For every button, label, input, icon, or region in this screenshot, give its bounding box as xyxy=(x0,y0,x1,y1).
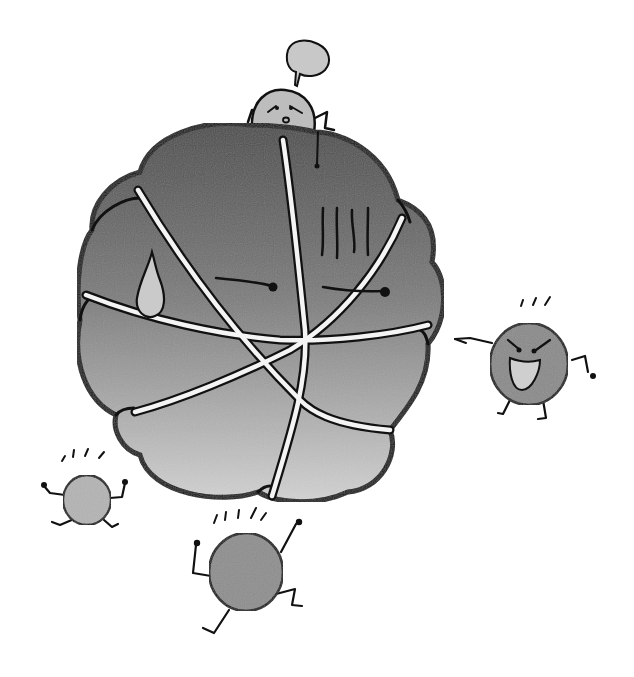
bottom-char-right-hand xyxy=(296,519,302,525)
cartoon-illustration xyxy=(0,0,634,677)
bottom-char-right-arm xyxy=(281,524,296,552)
bottom-char-left-hand xyxy=(194,540,200,546)
ball-left-pupil xyxy=(269,283,278,292)
peeking-leg xyxy=(317,132,318,165)
big-ball-character xyxy=(78,123,444,501)
left-motion-lines xyxy=(62,449,104,461)
bottom-char-right-leg xyxy=(276,589,302,606)
left-char-right-arm xyxy=(110,483,125,498)
angry-right-arm xyxy=(572,356,588,372)
ball-right-pupil xyxy=(380,287,390,297)
peeking-left-eye xyxy=(275,106,279,110)
peeking-foot xyxy=(315,164,320,169)
angry-motion-lines xyxy=(521,297,550,306)
left-char-left-arm xyxy=(44,486,65,495)
angry-left-eye xyxy=(517,348,522,353)
left-char-right-leg xyxy=(104,520,118,527)
small-character-bottom xyxy=(193,508,302,633)
bottom-char-left-leg xyxy=(203,610,229,633)
angry-right-fist xyxy=(590,373,596,379)
left-char-right-hand xyxy=(122,479,128,485)
speech-bubble xyxy=(287,41,329,86)
angry-left-leg xyxy=(498,400,510,414)
left-char-body xyxy=(63,475,111,525)
small-character-left xyxy=(41,449,128,527)
bottom-motion-lines xyxy=(214,508,266,523)
peeking-character xyxy=(248,41,334,132)
illustration-canvas: Big ball surrounded by small characters xyxy=(0,0,634,677)
bottom-char-body xyxy=(209,533,283,611)
angry-character xyxy=(455,297,596,419)
left-char-left-hand xyxy=(41,482,47,488)
peeking-right-hand xyxy=(315,112,334,130)
angry-right-eye xyxy=(532,349,537,354)
peeking-right-eye xyxy=(289,106,293,110)
